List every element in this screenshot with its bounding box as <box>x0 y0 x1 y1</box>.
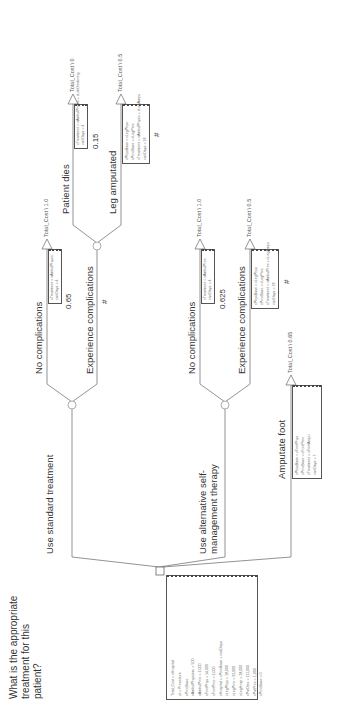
alternative-no-comp-label[interactable]: No complications <box>186 302 197 374</box>
standard-comp-prob: # <box>100 300 109 304</box>
leg-amputated-payoff: Total_Cost \ 0.5 <box>117 54 123 92</box>
terminal-node-icon <box>42 239 52 249</box>
branch-alternative-label[interactable]: Use alternative self-management therapy <box>197 424 219 554</box>
standard-no-comp-box[interactable]: cTreatment = cAmbulPhysic visitDays = 4 <box>48 249 62 304</box>
alternative-no-comp-payoff: Total_Cost \ 1.0 <box>196 199 202 237</box>
root-variables-box[interactable]: Total_Cost = cHospital ut = Procedure cP… <box>166 575 258 700</box>
branch-amputate-label[interactable]: Amputate foot <box>276 420 287 479</box>
leg-amputated-box[interactable]: cPhysBase = cLegPhys cProcBase = cLegPro… <box>122 104 150 164</box>
decision-node-icon <box>156 567 164 575</box>
patient-dies-payoff: Total_Cost \ 0 <box>69 58 75 92</box>
patient-dies-label[interactable]: Patient dies <box>60 164 71 214</box>
root-variables-list: Total_Cost = cHospital ut = Procedure cP… <box>170 641 265 696</box>
decision-tree-canvas: What is the appropriate treatment for th… <box>0 0 349 709</box>
standard-no-comp-payoff: Total_Cost \ 1.0 <box>43 199 49 237</box>
patient-dies-prob: 0.15 <box>91 133 100 149</box>
patient-dies-box[interactable]: cTreatment = cAmbulPhysic + cLabDiedevin… <box>74 104 88 149</box>
amputate-foot-payoff: Total_Cost \ 0.65 <box>287 332 293 373</box>
standard-comp-label[interactable]: Experience complications <box>84 266 95 374</box>
standard-no-comp-prob: 0.65 <box>64 293 73 309</box>
alternative-no-comp-prob: 0.625 <box>218 289 227 309</box>
alternative-comp-box[interactable]: cPhysBase = cLegPhys cProcBase = cLegPro… <box>251 249 279 309</box>
chance-node-icon <box>221 401 229 409</box>
root-question: What is the appropriate treatment for th… <box>8 589 44 699</box>
leg-amputated-prob: # <box>152 133 161 137</box>
terminal-node-icon <box>195 239 205 249</box>
chance-node-icon <box>93 242 101 250</box>
terminal-node-icon <box>286 375 296 385</box>
alternative-comp-payoff: Total_Cost \ 0.5 <box>246 199 252 237</box>
alternative-no-comp-box[interactable]: cTreatment = cAmbulProc visitDays = 4 <box>201 249 215 304</box>
amputate-foot-box[interactable]: cPhysBase = cFootPhys cProcBase = cFootP… <box>292 385 322 479</box>
chance-node-icon <box>68 401 76 409</box>
branch-standard-label[interactable]: Use standard treatment <box>44 444 55 554</box>
standard-no-comp-label[interactable]: No complications <box>33 302 44 374</box>
leg-amputated-label[interactable]: Leg amputated <box>107 151 118 214</box>
alternative-comp-prob: # <box>282 280 291 284</box>
alternative-comp-label[interactable]: Experience complications <box>236 266 247 374</box>
